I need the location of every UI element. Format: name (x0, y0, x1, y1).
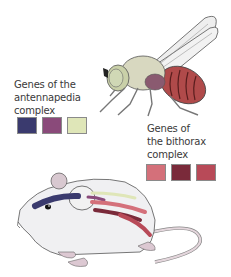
mouse-illustration (0, 0, 231, 277)
